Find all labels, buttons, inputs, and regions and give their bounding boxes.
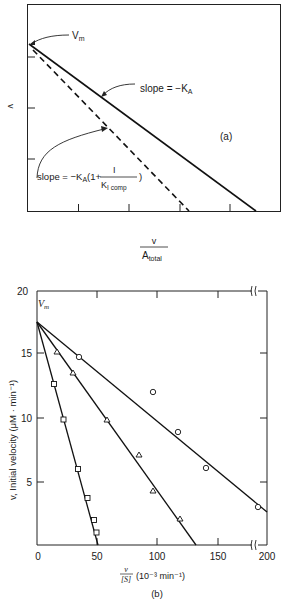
panel-a-x-label-den: Atotal <box>142 250 162 262</box>
figure-canvas: Vm slope = −KA (a) slope = −KA(1+ I KI c… <box>0 0 286 600</box>
uninhibited-line <box>29 44 256 211</box>
panel-a-label: (a) <box>220 131 232 142</box>
panel-a-x-ticks <box>79 204 231 211</box>
panel-b-x-label-num: v <box>124 565 128 574</box>
panel-a-y-label: v <box>6 104 16 109</box>
panel-b-x-label-den: [S] <box>121 575 131 584</box>
x-tick-0: 0 <box>35 551 41 562</box>
x-tick-150: 150 <box>210 551 227 562</box>
slope-dashed-arrowhead-icon <box>101 126 108 132</box>
panel-b: 20 15 10 5 0 50 100 150 200 Vm <box>7 286 276 599</box>
panel-a: Vm slope = −KA (a) slope = −KA(1+ I KI c… <box>6 5 281 263</box>
slope-solid-arrow <box>103 84 135 95</box>
panel-a-y-ticks <box>28 57 35 159</box>
panel-b-x-ticks-top <box>97 291 218 298</box>
panel-b-y-label: v, Initial velocity (μM · min⁻¹) <box>7 380 18 500</box>
panel-a-x-label-num: v <box>152 236 157 246</box>
slope-solid-label: slope = −KA <box>140 83 193 95</box>
y-tick-20: 20 <box>17 286 29 297</box>
x-tick-100: 100 <box>149 551 166 562</box>
slope-dashed-frac-den: KI comp <box>101 180 127 192</box>
fit-line-squares <box>37 322 98 545</box>
vm-arrow <box>31 35 69 44</box>
slope-dashed-close: ) <box>139 171 142 182</box>
x-tick-50: 50 <box>91 551 103 562</box>
panel-b-y-ticks <box>37 353 44 482</box>
y-tick-10: 10 <box>21 413 33 424</box>
panel-b-label: (b) <box>151 588 163 599</box>
series-squares <box>52 382 100 536</box>
slope-dashed-label: slope = −KA(1+ <box>37 171 102 183</box>
x-tick-200: 200 <box>259 551 276 562</box>
series-triangles <box>54 349 183 521</box>
vm-label: Vm <box>72 30 85 42</box>
y-tick-15: 15 <box>21 348 33 359</box>
y-tick-5: 5 <box>26 477 32 488</box>
panel-b-y-ticks-right <box>260 353 267 482</box>
slope-dashed-frac-num: I <box>113 165 116 175</box>
panel-b-x-ticks <box>97 538 218 545</box>
panel-b-vm-label: Vm <box>38 298 49 311</box>
panel-b-x-label-units: (10⁻³ min⁻¹) <box>136 571 185 581</box>
